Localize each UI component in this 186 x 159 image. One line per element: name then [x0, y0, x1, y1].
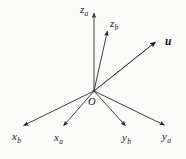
axis-lines	[24, 13, 165, 126]
axis-line-x-b	[24, 91, 95, 126]
axes-vector-graphic	[0, 0, 186, 159]
vector-label-u: u	[165, 36, 171, 48]
axis-line-y-b	[94, 91, 126, 126]
axis-label-y-a: ya	[162, 131, 171, 142]
axis-line-y-a	[94, 91, 165, 125]
axis-label-z-a: za	[80, 4, 88, 15]
axis-label-x-b: xb	[12, 131, 21, 142]
axis-label-x-a: xa	[54, 132, 63, 143]
origin-label: O	[88, 97, 96, 108]
coordinate-axes-diagram: za zb xb xa yb ya u O	[0, 0, 186, 159]
axis-label-y-b: yb	[122, 132, 131, 143]
origin-point	[93, 90, 95, 92]
axis-label-z-b: zb	[110, 18, 118, 29]
